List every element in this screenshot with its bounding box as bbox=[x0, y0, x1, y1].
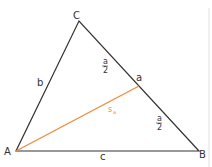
triangle-abc bbox=[16, 21, 199, 151]
median-label: s a bbox=[108, 105, 116, 115]
vertex-a-label: A bbox=[4, 146, 11, 157]
fraction-denominator: 2 bbox=[157, 123, 162, 132]
median-line bbox=[16, 86, 139, 151]
half-a-lower-fraction: a 2 bbox=[156, 114, 162, 132]
fraction-denominator: 2 bbox=[103, 66, 108, 75]
side-a-label: a bbox=[136, 72, 142, 83]
triangle-diagram: A B C b c a a 2 a 2 s a bbox=[0, 0, 212, 167]
vertex-c-label: C bbox=[73, 10, 80, 21]
median-label-main: s bbox=[108, 105, 112, 114]
vertex-b-label: B bbox=[199, 149, 206, 160]
fraction-numerator: a bbox=[157, 114, 162, 123]
side-b-label: b bbox=[37, 77, 43, 88]
side-c-label: c bbox=[100, 151, 106, 162]
median-label-subscript: a bbox=[113, 109, 116, 115]
fraction-numerator: a bbox=[103, 57, 108, 66]
half-a-upper-fraction: a 2 bbox=[102, 57, 108, 75]
